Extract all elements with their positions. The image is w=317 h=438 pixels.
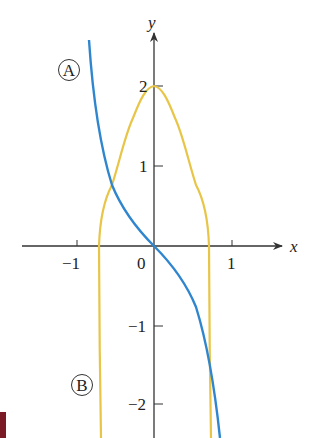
annotation-b-label: B	[76, 376, 87, 395]
y-tick-label-2: 2	[139, 77, 148, 96]
x-axis-label: x	[289, 237, 298, 256]
origin-label: 0	[137, 254, 146, 273]
y-tick-label-neg1: −1	[128, 317, 146, 336]
page-edge-marker	[0, 412, 6, 438]
annotation-a-label: A	[63, 61, 76, 80]
graph-plot: y x −1 0 1 2 1 −1 −2 A B	[0, 0, 317, 438]
curve-b	[99, 86, 211, 438]
annotation-a: A	[59, 60, 80, 81]
x-tick-label-neg1: −1	[62, 254, 80, 273]
x-tick-label-1: 1	[227, 254, 236, 273]
y-axis-label: y	[146, 13, 156, 32]
y-tick-label-neg2: −2	[128, 395, 146, 414]
y-tick-label-1: 1	[139, 157, 148, 176]
annotation-b: B	[72, 375, 93, 396]
